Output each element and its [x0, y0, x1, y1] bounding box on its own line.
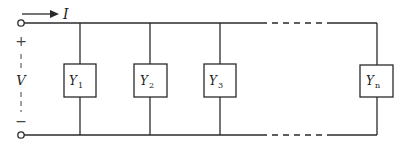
- branch-y1: Y1: [64, 23, 96, 135]
- bottom-terminal-icon: [18, 132, 24, 138]
- voltage-label: V: [16, 73, 27, 88]
- plus-sign: +: [15, 33, 27, 49]
- parallel-admittance-circuit: I + V − Y1 Y2 Y3 Yn: [0, 0, 409, 144]
- top-terminal-icon: [18, 20, 24, 26]
- current-arrow-icon: [22, 10, 59, 18]
- branch-y2: Y2: [134, 23, 167, 135]
- current-label: I: [62, 6, 69, 22]
- branch-yn: Yn: [360, 23, 393, 135]
- minus-sign: −: [15, 113, 27, 129]
- branch-y3: Y3: [204, 23, 236, 135]
